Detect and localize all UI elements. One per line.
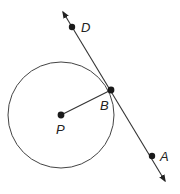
label-p: P [56, 122, 65, 137]
geometry-diagram: D B P A [0, 0, 180, 194]
label-b: B [100, 98, 109, 113]
label-d: D [81, 20, 90, 35]
point-p [58, 112, 65, 119]
point-a [149, 153, 155, 159]
point-b [108, 87, 115, 94]
point-d [69, 24, 75, 30]
label-a: A [159, 149, 169, 164]
